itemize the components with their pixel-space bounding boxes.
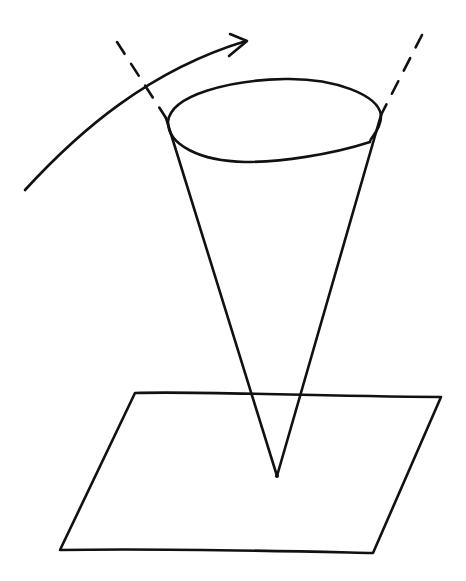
- cone-rim-ellipse: [168, 79, 381, 162]
- rotation-arrow-curve: [25, 41, 246, 190]
- right-axis-extension: [381, 35, 422, 115]
- ground-plane: [60, 393, 441, 553]
- cone-apex: [275, 474, 279, 478]
- cone-right-side: [277, 115, 381, 476]
- diagram-canvas: [0, 0, 466, 581]
- cone-left-side: [166, 118, 277, 476]
- cone-on-plane-sketch: [0, 0, 466, 581]
